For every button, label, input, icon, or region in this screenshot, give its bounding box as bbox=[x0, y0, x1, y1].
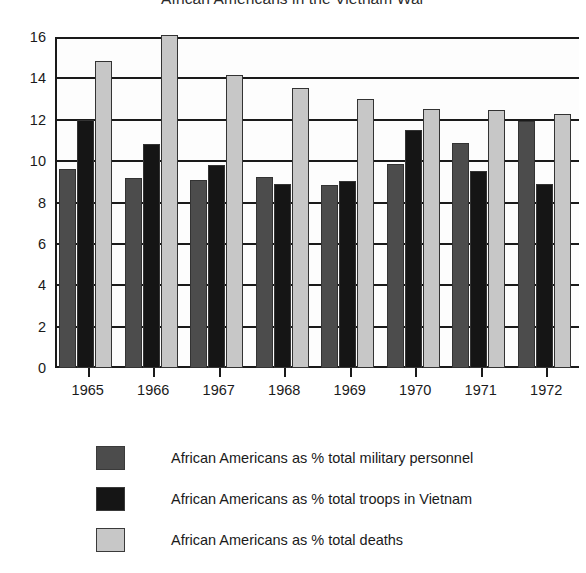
x-tick-label: 1969 bbox=[315, 382, 385, 398]
bar bbox=[339, 181, 356, 368]
bar-series-container bbox=[55, 37, 579, 368]
bar-group bbox=[387, 37, 440, 368]
y-tick-label: 2 bbox=[8, 320, 46, 335]
x-tick bbox=[88, 368, 90, 377]
legend-label: African Americans as % total troops in V… bbox=[171, 491, 472, 507]
bar-group bbox=[452, 37, 505, 368]
bar bbox=[292, 88, 309, 368]
bar bbox=[518, 121, 535, 368]
bar-group bbox=[518, 37, 571, 368]
x-tick-label: 1971 bbox=[446, 382, 516, 398]
y-tick-label: 16 bbox=[8, 30, 46, 45]
bar bbox=[143, 144, 160, 368]
x-axis: 19651966196719681969197019711972 bbox=[55, 368, 579, 408]
x-tick-label: 1967 bbox=[184, 382, 254, 398]
x-tick bbox=[546, 368, 548, 377]
bar bbox=[274, 184, 291, 368]
x-tick bbox=[481, 368, 483, 377]
bar bbox=[77, 120, 94, 368]
legend-label: African Americans as % total military pe… bbox=[171, 450, 473, 466]
legend-item[interactable]: African Americans as % total deaths bbox=[96, 519, 566, 560]
bar bbox=[59, 169, 76, 368]
bar bbox=[405, 130, 422, 368]
y-tick-label: 4 bbox=[8, 278, 46, 293]
legend-swatch bbox=[96, 528, 125, 552]
bar bbox=[125, 178, 142, 368]
bar bbox=[357, 99, 374, 368]
x-tick bbox=[219, 368, 221, 377]
x-tick bbox=[284, 368, 286, 377]
y-tick-label: 12 bbox=[8, 113, 46, 128]
legend-swatch bbox=[96, 487, 125, 511]
bar-group bbox=[59, 37, 112, 368]
x-tick bbox=[415, 368, 417, 377]
legend-swatch bbox=[96, 446, 125, 470]
bar bbox=[470, 171, 487, 368]
bar bbox=[190, 180, 207, 368]
bar bbox=[554, 114, 571, 368]
bar bbox=[208, 165, 225, 368]
bar bbox=[226, 75, 243, 368]
y-tick-label: 8 bbox=[8, 196, 46, 211]
chart-title: African Americans in the Vietnam War bbox=[0, 0, 586, 9]
plot-area bbox=[55, 37, 579, 368]
bar bbox=[536, 184, 553, 368]
y-tick-label: 0 bbox=[8, 361, 46, 376]
bar bbox=[452, 143, 469, 368]
y-tick-label: 10 bbox=[8, 154, 46, 169]
bar bbox=[161, 35, 178, 368]
x-tick-label: 1968 bbox=[249, 382, 319, 398]
x-tick-label: 1966 bbox=[118, 382, 188, 398]
bar-group bbox=[125, 37, 178, 368]
legend-item[interactable]: African Americans as % total military pe… bbox=[96, 437, 566, 478]
bar-group bbox=[256, 37, 309, 368]
y-tick-label: 6 bbox=[8, 237, 46, 252]
bar-chart-figure: African Americans in the Vietnam War 024… bbox=[0, 0, 586, 573]
x-tick-label: 1970 bbox=[380, 382, 450, 398]
bar-group bbox=[190, 37, 243, 368]
x-tick-label: 1965 bbox=[53, 382, 123, 398]
bar bbox=[321, 185, 338, 368]
legend-label: African Americans as % total deaths bbox=[171, 532, 403, 548]
bar bbox=[387, 164, 404, 368]
bar bbox=[95, 61, 112, 368]
legend-item[interactable]: African Americans as % total troops in V… bbox=[96, 478, 566, 519]
y-tick-label: 14 bbox=[8, 71, 46, 86]
bar bbox=[423, 109, 440, 368]
bar-group bbox=[321, 37, 374, 368]
x-tick-label: 1972 bbox=[511, 382, 581, 398]
x-tick bbox=[350, 368, 352, 377]
bar bbox=[488, 110, 505, 368]
x-tick bbox=[153, 368, 155, 377]
chart-legend: African Americans as % total military pe… bbox=[96, 437, 566, 560]
bar bbox=[256, 177, 273, 368]
